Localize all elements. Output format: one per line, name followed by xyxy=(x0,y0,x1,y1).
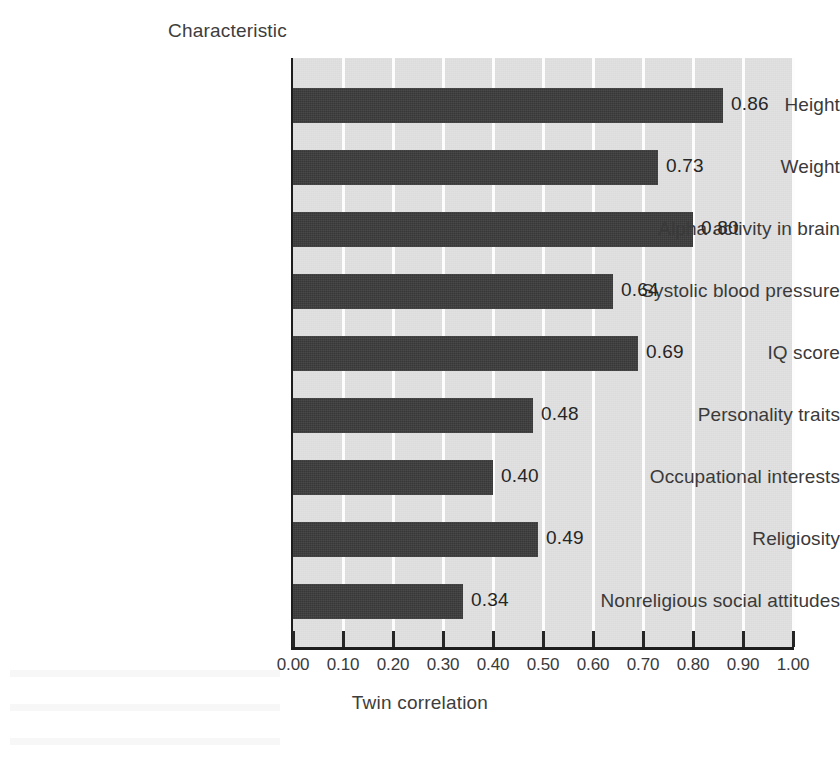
bar-value-label: 0.86 xyxy=(731,93,769,115)
x-axis-tick-label: 0.70 xyxy=(615,655,671,675)
category-label: Systolic blood pressure xyxy=(557,280,840,302)
y-axis-line xyxy=(291,58,293,650)
x-axis-tick-label: 0.80 xyxy=(665,655,721,675)
x-axis-tick-label: 0.00 xyxy=(265,655,321,675)
x-axis-tick xyxy=(492,631,495,647)
y-axis-title: Characteristic xyxy=(168,20,287,42)
x-axis-tick xyxy=(592,631,595,647)
bar-value-label: 0.69 xyxy=(646,341,684,363)
x-axis-tick xyxy=(692,631,695,647)
x-axis-tick-label: 0.50 xyxy=(515,655,571,675)
x-axis-tick xyxy=(742,631,745,647)
bar xyxy=(293,522,538,557)
bar-chart-figure: Characteristic 0.000.100.200.300.400.500… xyxy=(0,0,840,767)
bar-value-label: 0.40 xyxy=(501,465,539,487)
x-axis-tick-label: 0.10 xyxy=(315,655,371,675)
bar-value-label: 0.49 xyxy=(546,527,584,549)
x-axis-tick xyxy=(442,631,445,647)
x-axis-tick xyxy=(542,631,545,647)
bar-value-label: 0.64 xyxy=(621,279,659,301)
x-axis-tick xyxy=(342,631,345,647)
bar xyxy=(293,460,493,495)
bar-value-label: 0.73 xyxy=(666,155,704,177)
category-label: Alpha activity in brain xyxy=(557,218,840,240)
x-axis-tick-label: 0.90 xyxy=(715,655,771,675)
x-axis-tick xyxy=(392,631,395,647)
bar-value-label: 0.48 xyxy=(541,403,579,425)
bar xyxy=(293,584,463,619)
x-axis-tick xyxy=(292,631,295,647)
x-axis-tick-label: 0.40 xyxy=(465,655,521,675)
category-label: IQ score xyxy=(557,342,840,364)
category-label: Religiosity xyxy=(557,528,840,550)
category-label: Height xyxy=(557,94,840,116)
x-axis-tick-label: 0.20 xyxy=(365,655,421,675)
bar-value-label: 0.80 xyxy=(701,217,739,239)
x-axis-title: Twin correlation xyxy=(0,692,840,714)
x-axis-tick xyxy=(642,631,645,647)
x-axis-line xyxy=(291,647,794,650)
bar-value-label: 0.34 xyxy=(471,589,509,611)
category-label: Nonreligious social attitudes xyxy=(557,590,840,612)
x-axis-tick-label: 1.00 xyxy=(765,655,821,675)
category-label: Personality traits xyxy=(557,404,840,426)
category-label: Occupational interests xyxy=(557,466,840,488)
x-axis-tick-label: 0.60 xyxy=(565,655,621,675)
x-axis-tick xyxy=(792,631,795,647)
x-axis-tick-label: 0.30 xyxy=(415,655,471,675)
bar xyxy=(293,398,533,433)
